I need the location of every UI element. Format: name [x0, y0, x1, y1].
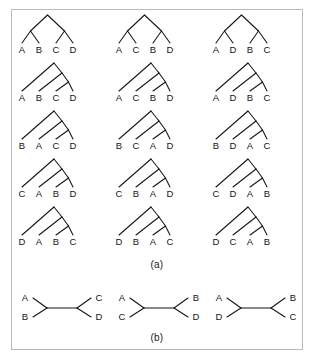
panel-a: ABCDACBDADBCABCDACBDADBCBACDBCADBDACCABD…: [12, 10, 302, 258]
taxon-label-b: B: [193, 292, 199, 303]
rooted-tree-diagram: ABCD: [12, 12, 100, 57]
leaf-label-b: B: [213, 140, 219, 151]
taxon-label-a: A: [216, 292, 223, 303]
leaf-label-b: B: [36, 92, 42, 103]
leaf-label-d: D: [70, 140, 77, 151]
taxon-label-d: D: [96, 311, 103, 322]
leaf-label-a: A: [36, 236, 43, 247]
taxon-label-b: B: [22, 311, 28, 322]
rooted-tree-r5-c1: DABC: [12, 204, 100, 249]
leaf-label-a: A: [19, 92, 26, 103]
leaf-label-a: A: [150, 188, 157, 199]
leaf-label-c: C: [264, 92, 271, 103]
leaf-label-d: D: [167, 140, 174, 151]
leaf-label-a: A: [19, 44, 26, 55]
rooted-tree-r4-c3: CDAB: [206, 156, 294, 201]
leaf-label-a: A: [36, 140, 43, 151]
rooted-tree-diagram: ADBC: [206, 60, 294, 105]
leaf-label-b: B: [53, 188, 59, 199]
rooted-tree-r2-c3: ADBC: [206, 60, 294, 105]
leaf-label-b: B: [150, 92, 156, 103]
rooted-tree-diagram: CDAB: [206, 156, 294, 201]
taxon-label-a: A: [22, 292, 29, 303]
rooted-tree-diagram: BACD: [12, 108, 100, 153]
leaf-label-c: C: [116, 188, 123, 199]
leaf-label-b: B: [36, 44, 42, 55]
unrooted-tree-diagram: ACBD: [111, 282, 207, 330]
panel-b: ABCDACBDADBC: [12, 282, 302, 330]
leaf-label-a: A: [213, 44, 220, 55]
leaf-label-b: B: [19, 140, 25, 151]
rooted-tree-r2-c2: ACBD: [109, 60, 197, 105]
leaf-label-c: C: [230, 236, 237, 247]
unrooted-tree-diagram: ADBC: [208, 282, 304, 330]
leaf-label-b: B: [116, 140, 122, 151]
rooted-tree-diagram: ACBD: [109, 12, 197, 57]
rooted-tree-r3-c2: BCAD: [109, 108, 197, 153]
leaf-label-c: C: [133, 92, 140, 103]
rooted-tree-r2-c1: ABCD: [12, 60, 100, 105]
rooted-tree-r5-c3: DCAB: [206, 204, 294, 249]
leaf-label-a: A: [150, 140, 157, 151]
leaf-label-a: A: [116, 44, 123, 55]
rooted-tree-r3-c3: BDAC: [206, 108, 294, 153]
rooted-tree-grid: ABCDACBDADBCABCDACBDADBCBACDBCADBDACCABD…: [12, 12, 302, 258]
leaf-label-c: C: [133, 44, 140, 55]
leaf-label-d: D: [70, 92, 77, 103]
rooted-tree-r1-c1: ABCD: [12, 12, 100, 57]
leaf-label-d: D: [167, 188, 174, 199]
leaf-label-d: D: [230, 44, 237, 55]
rooted-tree-diagram: ADBC: [206, 12, 294, 57]
leaf-label-b: B: [150, 44, 156, 55]
rooted-tree-diagram: BDAC: [206, 108, 294, 153]
rooted-tree-diagram: ACBD: [109, 60, 197, 105]
leaf-label-a: A: [247, 188, 254, 199]
taxon-label-c: C: [290, 311, 297, 322]
leaf-label-c: C: [264, 140, 271, 151]
leaf-label-c: C: [133, 140, 140, 151]
leaf-label-d: D: [230, 188, 237, 199]
rooted-tree-r4-c1: CABD: [12, 156, 100, 201]
rooted-tree-r1-c3: ADBC: [206, 12, 294, 57]
leaf-label-d: D: [116, 236, 123, 247]
taxon-label-d: D: [216, 311, 223, 322]
leaf-label-c: C: [53, 92, 60, 103]
caption-b: (b): [12, 332, 302, 343]
leaf-label-d: D: [230, 92, 237, 103]
leaf-label-a: A: [247, 236, 254, 247]
rooted-tree-diagram: CBAD: [109, 156, 197, 201]
unrooted-tree-3: ADBC: [208, 282, 304, 330]
rooted-tree-r5-c2: DBAC: [109, 204, 197, 249]
leaf-label-b: B: [53, 236, 59, 247]
rooted-tree-diagram: DCAB: [206, 204, 294, 249]
rooted-tree-diagram: DABC: [12, 204, 100, 249]
leaf-label-d: D: [70, 188, 77, 199]
rooted-tree-diagram: DBAC: [109, 204, 197, 249]
leaf-label-a: A: [247, 140, 254, 151]
taxon-label-b: B: [290, 292, 296, 303]
rooted-tree-r1-c2: ACBD: [109, 12, 197, 57]
rooted-tree-diagram: CABD: [12, 156, 100, 201]
leaf-label-c: C: [167, 236, 174, 247]
leaf-label-d: D: [70, 44, 77, 55]
leaf-label-a: A: [213, 92, 220, 103]
taxon-label-c: C: [119, 311, 126, 322]
leaf-label-d: D: [213, 236, 220, 247]
rooted-tree-r3-c1: BACD: [12, 108, 100, 153]
figure-panel: ABCDACBDADBCABCDACBDADBCBACDBCADBDACCABD…: [11, 9, 303, 350]
leaf-label-b: B: [133, 236, 139, 247]
leaf-label-c: C: [70, 236, 77, 247]
taxon-label-d: D: [193, 311, 200, 322]
rooted-tree-r4-c2: CBAD: [109, 156, 197, 201]
taxon-label-a: A: [119, 292, 126, 303]
leaf-label-c: C: [213, 188, 220, 199]
unrooted-tree-2: ACBD: [111, 282, 207, 330]
leaf-label-c: C: [264, 44, 271, 55]
leaf-label-d: D: [167, 92, 174, 103]
leaf-label-c: C: [19, 188, 26, 199]
leaf-label-b: B: [133, 188, 139, 199]
unrooted-tree-diagram: ABCD: [14, 282, 110, 330]
leaf-label-a: A: [150, 236, 157, 247]
unrooted-tree-1: ABCD: [14, 282, 110, 330]
leaf-label-b: B: [264, 236, 270, 247]
